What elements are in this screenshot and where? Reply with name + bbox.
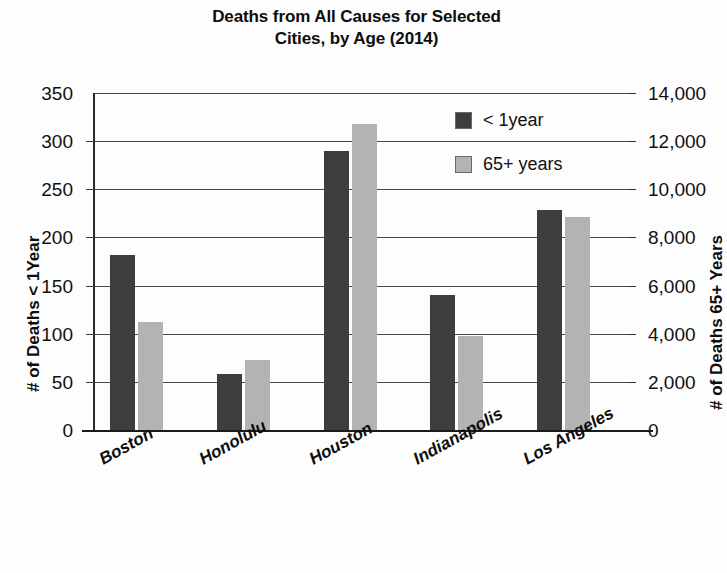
- y-axis-left-tick-label: 300: [41, 132, 73, 151]
- y-axis-right-tick-mark: [627, 286, 636, 287]
- legend-item: < 1year: [455, 110, 563, 130]
- chart-title: Deaths from All Causes for Selected Citi…: [0, 6, 713, 51]
- legend-swatch-icon: [455, 112, 472, 129]
- chart-title-line-1: Deaths from All Causes for Selected: [0, 6, 713, 28]
- y-axis-left-tick-mark: [86, 382, 94, 383]
- legend-item: 65+ years: [455, 154, 563, 174]
- y-axis-right-tick-label: 2,000: [648, 373, 696, 392]
- y-axis-right-tick-mark: [627, 334, 636, 335]
- legend-label: 65+ years: [483, 154, 563, 175]
- y-axis-right-tick-label: 8,000: [648, 228, 696, 247]
- bar-group: [110, 93, 163, 430]
- bar: [138, 322, 163, 430]
- bar: [430, 295, 455, 430]
- bar: [537, 210, 562, 430]
- y-axis-right-tick-mark: [627, 382, 636, 383]
- legend-swatch-icon: [455, 156, 472, 173]
- y-axis-right-tick-label: 10,000: [648, 180, 706, 199]
- y-axis-right-tick-mark: [627, 93, 636, 94]
- y-axis-left-tick-label: 350: [41, 84, 73, 103]
- y-axis-right-tick-label: 12,000: [648, 132, 706, 151]
- y-axis-right-tick-mark: [627, 141, 636, 142]
- chart-title-line-2: Cities, by Age (2014): [0, 28, 713, 50]
- bar: [217, 374, 242, 430]
- bar-group: [217, 93, 270, 430]
- y-axis-left-tick-mark: [86, 237, 94, 238]
- y-axis-right-tick-mark: [627, 237, 636, 238]
- y-axis-left-tick-mark: [86, 141, 94, 142]
- y-axis-right-tick-label: 14,000: [648, 84, 706, 103]
- y-axis-right-tick-mark: [627, 189, 636, 190]
- bar: [565, 217, 590, 430]
- y-axis-left-tick-label: 50: [52, 373, 73, 392]
- y-axis-left-tick-label: 150: [41, 277, 73, 296]
- bar: [110, 255, 135, 430]
- y-axis-left-tick-label: 250: [41, 180, 73, 199]
- chart-legend: < 1year65+ years: [455, 110, 563, 198]
- y-axis-left-tick-mark: [86, 334, 94, 335]
- y-axis-right-title: # of Deaths 65+ Years: [707, 235, 727, 410]
- y-axis-right-tick-label: 6,000: [648, 277, 696, 296]
- y-axis-left-title: # of Deaths < 1Year: [24, 236, 44, 392]
- y-axis-left-tick-mark: [86, 286, 94, 287]
- y-axis-left-tick-label: 0: [62, 421, 73, 440]
- bar: [352, 124, 377, 430]
- bar-group: [324, 93, 377, 430]
- y-axis-right-ticks: 02,0004,0006,0008,00010,00012,00014,000: [636, 0, 716, 573]
- y-axis-left-tick-label: 100: [41, 325, 73, 344]
- bar: [324, 151, 349, 430]
- y-axis-right-tick-label: 4,000: [648, 325, 696, 344]
- y-axis-left-tick-label: 200: [41, 228, 73, 247]
- legend-label: < 1year: [483, 110, 544, 131]
- y-axis-left-tick-mark: [86, 189, 94, 190]
